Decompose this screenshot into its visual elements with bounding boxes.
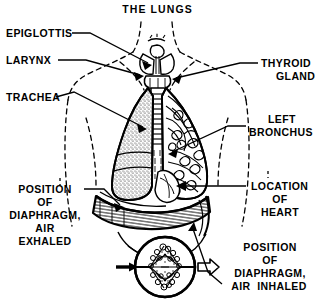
label-larynx: LARYNX [6, 54, 51, 67]
label-thyroid-gland-line2: GLAND [276, 70, 315, 83]
label-diaphragm-exhaled-line1: POSITION [6, 183, 84, 196]
label-diaphragm-inhaled-line1: POSITION [228, 241, 312, 254]
label-location-heart-line3: HEART [251, 206, 309, 219]
alveolus-inset [135, 237, 196, 297]
label-diaphragm-exhaled-line5: EXHALED [6, 235, 84, 248]
right-lung [108, 88, 157, 200]
label-location-heart-line1: LOCATION [251, 180, 308, 193]
label-thyroid-gland-line1: THYROID [261, 57, 311, 70]
label-diaphragm-exhaled-line3: DIAPHRAGM, [2, 209, 88, 222]
label-left-bronchus-line1: LEFT [268, 113, 296, 126]
label-diaphragm-inhaled-line4: AIR INHALED [223, 280, 315, 293]
label-epiglottis: EPIGLOTTIS [6, 27, 72, 40]
label-diaphragm-inhaled-line2: OF [228, 254, 312, 267]
label-location-heart-line2: OF [251, 193, 309, 206]
label-left-bronchus-line2: BRONCHUS [249, 126, 313, 139]
label-trachea: TRACHEA [6, 91, 60, 104]
label-diaphragm-exhaled-line4: AIR [6, 222, 84, 235]
label-diaphragm-exhaled-line2: OF [6, 196, 84, 209]
label-diaphragm-inhaled-line3: DIAPHRAGM, [225, 267, 315, 280]
